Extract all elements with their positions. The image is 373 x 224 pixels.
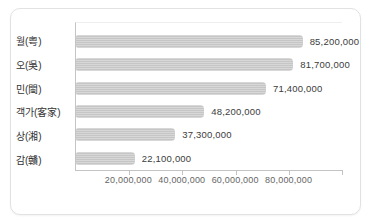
category-label: 오(吳): [13, 53, 75, 77]
x-axis-labels: 20,000,00040,000,00060,000,00080,000,000: [75, 175, 342, 189]
plot-area: 85,200,00081,700,00071,400,00048,200,000…: [75, 22, 342, 171]
bar: [76, 58, 293, 71]
value-label: 85,200,000: [310, 36, 360, 47]
x-tick-label: 60,000,000: [212, 175, 259, 185]
value-label: 81,700,000: [300, 59, 350, 70]
bar: [76, 105, 204, 118]
x-tick-label: 20,000,000: [105, 175, 152, 185]
screenshot-canvas: 월(粤)오(吳)민(閩)객가(客家)상(湘)감(贛) 85,200,00081,…: [0, 0, 373, 224]
category-labels: 월(粤)오(吳)민(閩)객가(客家)상(湘)감(贛): [13, 29, 75, 171]
value-label: 37,300,000: [182, 129, 232, 140]
value-label: 71,400,000: [273, 83, 323, 94]
bar: [76, 35, 303, 48]
bar-row: 48,200,000: [76, 100, 342, 123]
chart-card: 월(粤)오(吳)민(閩)객가(客家)상(湘)감(贛) 85,200,00081,…: [10, 8, 361, 215]
bar-row: 85,200,000: [76, 30, 342, 53]
category-label: 객가(客家): [13, 100, 75, 124]
bar: [76, 128, 175, 141]
x-tick-label: 40,000,000: [158, 175, 205, 185]
bar-row: 71,400,000: [76, 77, 342, 100]
bar-rows: 85,200,00081,700,00071,400,00048,200,000…: [76, 30, 342, 170]
category-label: 민(閩): [13, 76, 75, 100]
category-label: 감(贛): [13, 147, 75, 171]
category-label: 월(粤): [13, 29, 75, 53]
bar: [76, 82, 266, 95]
x-tick-label: 80,000,000: [265, 175, 312, 185]
bar-row: 81,700,000: [76, 53, 342, 76]
bar-row: 22,100,000: [76, 147, 342, 170]
bar: [76, 152, 135, 165]
value-label: 22,100,000: [142, 153, 192, 164]
category-label: 상(湘): [13, 124, 75, 148]
bar-row: 37,300,000: [76, 123, 342, 146]
axis-tick-mark: [342, 170, 343, 175]
value-label: 48,200,000: [211, 106, 261, 117]
